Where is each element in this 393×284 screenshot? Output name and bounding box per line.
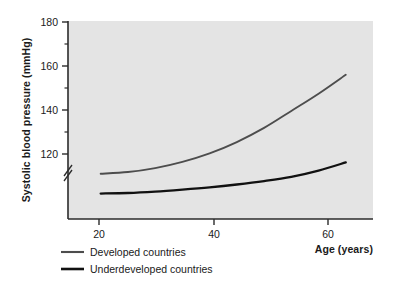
y-tick-label-120: 120 bbox=[40, 148, 58, 160]
x-axis-ticks bbox=[99, 219, 328, 225]
legend-label-developed-countries: Developed countries bbox=[90, 246, 186, 258]
y-tick-label-180: 180 bbox=[40, 16, 58, 28]
x-tick-label-20: 20 bbox=[93, 228, 105, 240]
plot-area-background bbox=[68, 21, 373, 219]
legend-label-underdeveloped-countries: Underdeveloped countries bbox=[90, 263, 213, 275]
chart-figure: 180 160 140 120 20 40 60 Systolic blood … bbox=[0, 0, 393, 284]
chart-legend: Developed countries Underdeveloped count… bbox=[61, 246, 213, 275]
x-tick-label-60: 60 bbox=[322, 228, 334, 240]
systolic-blood-pressure-line-chart: 180 160 140 120 20 40 60 Systolic blood … bbox=[0, 0, 393, 284]
y-tick-label-140: 140 bbox=[40, 104, 58, 116]
x-tick-label-40: 40 bbox=[208, 228, 220, 240]
x-axis-title: Age (years) bbox=[315, 243, 373, 255]
y-tick-label-160: 160 bbox=[40, 60, 58, 72]
y-axis-title: Systolic blood pressure (mmHg) bbox=[20, 38, 32, 203]
